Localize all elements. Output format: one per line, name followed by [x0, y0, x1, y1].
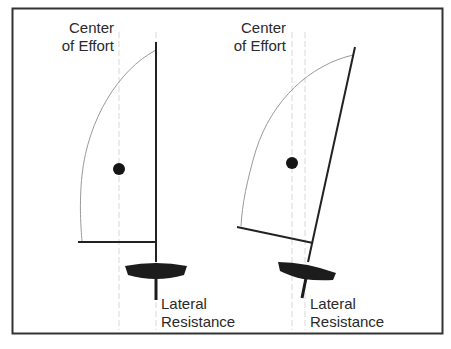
label-line: of Effort: [50, 37, 114, 55]
lateral-resistance-label-right: Lateral Resistance: [310, 295, 384, 331]
hull: [125, 263, 187, 279]
label-line: Center: [220, 19, 286, 37]
boom: [237, 227, 313, 243]
lateral-resistance-label-left: Lateral Resistance: [161, 295, 235, 331]
center-of-effort-label-left: Center of Effort: [50, 19, 114, 55]
sail-leech-curve: [80, 50, 156, 241]
center-of-effort-label-right: Center of Effort: [220, 19, 286, 55]
mast: [308, 47, 355, 262]
label-line: Resistance: [310, 313, 384, 331]
panel-raked: [237, 32, 355, 330]
label-line: of Effort: [220, 37, 286, 55]
label-line: Resistance: [161, 313, 235, 331]
panel-upright: [78, 32, 187, 330]
sail-leech-curve: [241, 55, 353, 226]
hull: [278, 262, 336, 280]
center-of-effort-dot: [286, 157, 298, 169]
label-line: Lateral: [161, 295, 235, 313]
frame-border: [13, 9, 443, 334]
center-of-effort-dot: [113, 163, 125, 175]
label-line: Lateral: [310, 295, 384, 313]
label-line: Center: [50, 19, 114, 37]
